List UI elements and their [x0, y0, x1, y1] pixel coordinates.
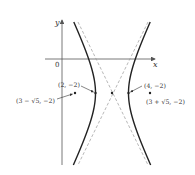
focus-left-pointer	[57, 94, 73, 99]
vertex-right-point	[127, 92, 129, 94]
vertex-left-point	[94, 92, 96, 94]
vertex-right-label: (4, −2)	[144, 82, 166, 89]
x-axis-label: x	[153, 60, 158, 69]
origin-label: 0	[55, 61, 59, 69]
focus-left-point	[74, 92, 76, 94]
focus-right-label: (3 + √5, −2)	[146, 98, 185, 105]
hyperbola-diagram: x y 0 (2, −2) (3 − √5, −2) (4, −2) (3 + …	[0, 0, 195, 175]
hyperbola-right-branch	[129, 22, 151, 165]
hyperbola-left-branch	[73, 22, 95, 165]
vertex-left-label: (2, −2)	[58, 81, 80, 88]
y-axis-label: y	[54, 18, 60, 27]
vertex-left-pointer	[81, 86, 94, 92]
focus-right-point	[149, 92, 151, 94]
focus-left-label: (3 − √5, −2)	[16, 97, 55, 104]
vertex-right-pointer	[131, 86, 143, 92]
center-point	[111, 92, 113, 94]
